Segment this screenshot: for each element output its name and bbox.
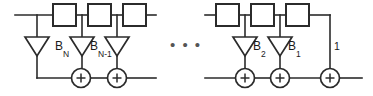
adder-5[interactable]: [321, 69, 340, 88]
filter-diagram: B N B N-1 • • •: [0, 0, 373, 96]
label-bn-minus-1-base: B: [90, 39, 98, 53]
label-b1-sub: 1: [296, 49, 301, 59]
gain-tap-b2-label: B 2: [253, 39, 266, 59]
gain-triangle-bn-left[interactable]: [25, 37, 49, 56]
gain-tap-b1-label: B 1: [288, 39, 301, 59]
adder-3[interactable]: [236, 69, 255, 88]
adder-4[interactable]: [271, 69, 290, 88]
delay-box-4[interactable]: [216, 4, 239, 26]
delay-box-5[interactable]: [251, 4, 274, 26]
gain-tap-bn-label: B N: [55, 39, 69, 59]
delay-box-6[interactable]: [286, 4, 309, 26]
adder-1[interactable]: [72, 69, 91, 88]
label-b1-base: B: [288, 39, 296, 53]
label-bn-sub: N: [63, 49, 69, 59]
adder-2[interactable]: [108, 69, 127, 88]
ellipsis-separator: • • •: [170, 36, 202, 53]
label-bn-minus-1-sub: N-1: [98, 49, 112, 59]
label-bn-base: B: [55, 39, 63, 53]
label-b2-sub: 2: [261, 49, 266, 59]
delay-box-1[interactable]: [53, 4, 76, 26]
label-b2-base: B: [253, 39, 261, 53]
delay-box-2[interactable]: [88, 4, 111, 26]
filter-signal-flow-svg: B N B N-1 • • •: [0, 0, 373, 96]
delay-box-3[interactable]: [123, 4, 146, 26]
label-unity-tap: 1: [334, 40, 340, 52]
